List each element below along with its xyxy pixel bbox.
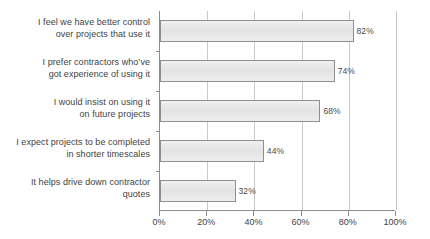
- bar-value-label-2: 68%: [323, 106, 340, 116]
- x-tick-mark-60%: [301, 211, 302, 216]
- bar-2[interactable]: 68%: [160, 100, 320, 122]
- y-tick-3: [156, 131, 160, 132]
- bar-0[interactable]: 82%: [160, 20, 354, 42]
- x-tick-mark-40%: [253, 211, 254, 216]
- y-tick-1: [156, 51, 160, 52]
- x-tick-mark-0%: [159, 211, 160, 216]
- category-label-4: It helps drive down contractor quotes: [0, 177, 150, 200]
- bar-value-label-0: 82%: [357, 26, 374, 36]
- x-tick-label-40%: 40%: [244, 217, 262, 227]
- bar-value-label-3: 44%: [267, 146, 284, 156]
- x-axis: 0%20%40%60%80%100%: [159, 211, 395, 217]
- category-label-1-line2: got experience of using it: [0, 69, 150, 81]
- category-label-2: I would insist on using it on future pro…: [0, 97, 150, 120]
- category-label-3-line1: I expect projects to be completed: [0, 137, 150, 149]
- x-tick-mark-80%: [348, 211, 349, 216]
- category-axis-labels: I feel we have better control over proje…: [0, 11, 155, 211]
- y-tick-2: [156, 91, 160, 92]
- bar-chart: I feel we have better control over proje…: [0, 0, 430, 239]
- bar-3[interactable]: 44%: [160, 140, 264, 162]
- category-label-4-line2: quotes: [0, 189, 150, 201]
- x-tick-label-20%: 20%: [197, 217, 215, 227]
- category-label-3: I expect projects to be completed in sho…: [0, 137, 150, 160]
- plot-area: 82%74%68%44%32%: [159, 11, 395, 211]
- x-tick-mark-20%: [206, 211, 207, 216]
- category-label-1: I prefer contractors who’ve got experien…: [0, 57, 150, 80]
- bar-1[interactable]: 74%: [160, 60, 335, 82]
- y-tick-4: [156, 171, 160, 172]
- x-tick-label-60%: 60%: [292, 217, 310, 227]
- gridline-100%: [396, 11, 397, 210]
- x-tick-mark-100%: [395, 211, 396, 216]
- category-label-0: I feel we have better control over proje…: [0, 17, 150, 40]
- category-label-4-line1: It helps drive down contractor: [0, 177, 150, 189]
- category-label-3-line2: in shorter timescales: [0, 149, 150, 161]
- bar-4[interactable]: 32%: [160, 180, 236, 202]
- x-tick-label-0%: 0%: [152, 217, 165, 227]
- x-tick-label-100%: 100%: [383, 217, 406, 227]
- category-label-2-line2: on future projects: [0, 109, 150, 121]
- bar-row: 74%: [160, 51, 395, 91]
- bar-row: 44%: [160, 131, 395, 171]
- x-tick-label-80%: 80%: [339, 217, 357, 227]
- bar-series: 82%74%68%44%32%: [160, 11, 395, 210]
- category-label-1-line1: I prefer contractors who’ve: [0, 57, 150, 69]
- bar-value-label-4: 32%: [239, 186, 256, 196]
- bar-row: 68%: [160, 91, 395, 131]
- category-label-2-line1: I would insist on using it: [0, 97, 150, 109]
- category-label-0-line1: I feel we have better control: [0, 17, 150, 29]
- bar-value-label-1: 74%: [338, 66, 355, 76]
- category-label-0-line2: over projects that use it: [0, 29, 150, 41]
- bar-row: 82%: [160, 11, 395, 51]
- bar-row: 32%: [160, 171, 395, 211]
